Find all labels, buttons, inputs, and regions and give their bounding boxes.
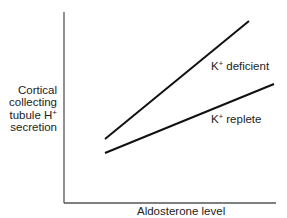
series-label-k-deficient-base: K bbox=[211, 60, 219, 72]
series-label-k-deficient-rest: deficient bbox=[223, 60, 269, 72]
x-axis-label: Aldosterone level bbox=[137, 205, 225, 217]
y-axis-label-line-4: secretion bbox=[9, 121, 57, 133]
series-label-k-replete-rest: replete bbox=[223, 113, 261, 125]
series-label-k-replete-base: K bbox=[211, 113, 219, 125]
y-axis-label-line-3-text: tubule H bbox=[9, 109, 52, 121]
y-axis-label: Cortical collecting tubule H+ secretion bbox=[9, 84, 57, 133]
y-axis-label-line-3: tubule H+ bbox=[9, 109, 57, 121]
y-axis-label-superscript: + bbox=[52, 108, 57, 117]
y-axis-label-line-2: collecting bbox=[9, 96, 57, 108]
series-label-k-replete: K+ replete bbox=[211, 113, 261, 125]
series-label-k-deficient: K+ deficient bbox=[211, 60, 269, 72]
y-axis-label-line-1: Cortical bbox=[9, 84, 57, 96]
